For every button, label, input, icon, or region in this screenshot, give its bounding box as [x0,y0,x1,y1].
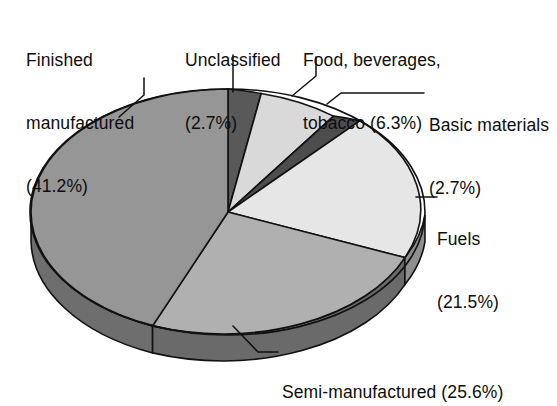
label-fuels-line1: Fuels [437,229,499,250]
label-food-beverages-tobacco-line1: Food, beverages, [303,50,441,71]
label-unclassified: Unclassified (2.7%) [185,8,281,176]
label-unclassified-line2: (2.7%) [185,113,281,134]
label-semi-manufactured-line1: Semi-manufactured (25.6%) [282,382,503,403]
label-fuels: Fuels (21.5%) [437,187,499,355]
label-finished-manufactured-line1: Finished [26,50,134,71]
label-finished-manufactured-line2: manufactured [26,113,134,134]
label-semi-manufactured: Semi-manufactured (25.6%) [282,340,503,406]
label-finished-manufactured-line3: (41.2%) [26,176,134,197]
label-food-beverages-tobacco-line2: tobacco (6.3%) [303,113,441,134]
label-finished-manufactured: Finished manufactured (41.2%) [26,8,134,239]
label-basic-materials-line1: Basic materials [429,115,549,136]
label-food-beverages-tobacco: Food, beverages, tobacco (6.3%) [303,8,441,176]
label-fuels-line2: (21.5%) [437,292,499,313]
label-unclassified-line1: Unclassified [185,50,281,71]
